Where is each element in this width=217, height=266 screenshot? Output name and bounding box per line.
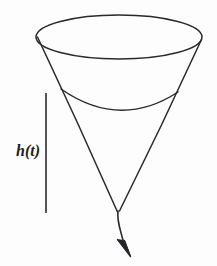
cone-rim-ellipse [36,15,202,59]
conical-tank-figure: h(t) [0,0,217,266]
height-label: h(t) [16,143,40,159]
outflow-stream [118,211,124,244]
cone-left-side [38,37,118,212]
liquid-surface-arc [61,89,178,110]
cone-right-side [120,40,202,212]
figure-canvas [0,0,217,266]
